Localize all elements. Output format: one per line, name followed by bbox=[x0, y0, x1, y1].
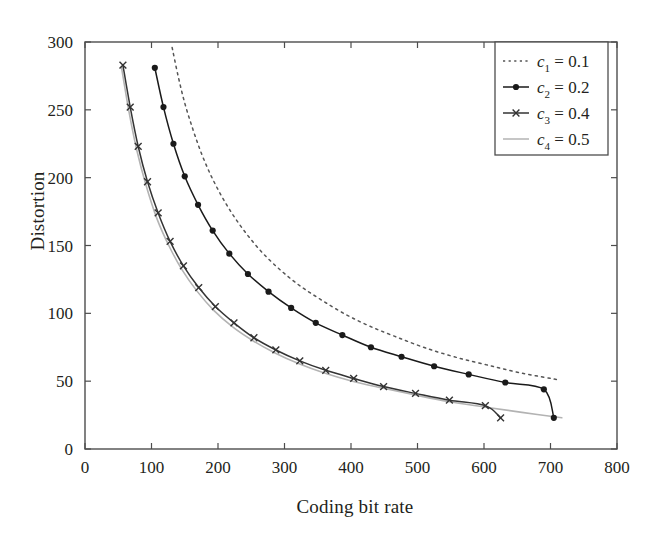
x-tick-label: 400 bbox=[338, 458, 364, 477]
data-point-marker bbox=[210, 227, 216, 233]
data-point-marker bbox=[551, 415, 557, 421]
y-tick-label: 150 bbox=[48, 237, 74, 256]
data-point-marker bbox=[502, 379, 508, 385]
data-point-marker bbox=[226, 251, 232, 257]
x-tick-label: 0 bbox=[81, 458, 90, 477]
data-point-marker bbox=[431, 363, 437, 369]
data-point-marker bbox=[541, 386, 547, 392]
x-tick-label: 100 bbox=[139, 458, 165, 477]
series-line bbox=[123, 65, 501, 418]
data-point-marker bbox=[265, 289, 271, 295]
legend-marker bbox=[513, 84, 519, 90]
series-3 bbox=[120, 62, 505, 422]
data-point-marker bbox=[398, 354, 404, 360]
data-point-marker bbox=[170, 141, 176, 147]
data-point-marker bbox=[195, 202, 201, 208]
legend-value: = 0.4 bbox=[550, 104, 590, 123]
x-tick-label: 700 bbox=[538, 458, 564, 477]
y-tick-label: 100 bbox=[48, 304, 74, 323]
data-point-marker bbox=[368, 344, 374, 350]
x-tick-label: 500 bbox=[405, 458, 431, 477]
x-tick-label: 800 bbox=[604, 458, 630, 477]
x-tick-label: 200 bbox=[205, 458, 231, 477]
data-point-marker bbox=[245, 271, 251, 277]
data-point-marker bbox=[182, 173, 188, 179]
data-point-marker bbox=[313, 320, 319, 326]
legend-value: = 0.2 bbox=[550, 78, 589, 97]
data-point-marker bbox=[160, 104, 166, 110]
data-point-marker bbox=[339, 332, 345, 338]
x-tick-label: 300 bbox=[272, 458, 298, 477]
data-point-marker bbox=[288, 305, 294, 311]
data-point-marker bbox=[152, 65, 158, 71]
y-tick-label: 0 bbox=[65, 440, 74, 459]
plot-canvas: 0100200300400500600700800050100150200250… bbox=[0, 0, 663, 539]
y-tick-label: 50 bbox=[56, 372, 73, 391]
legend: c1 = 0.1c2 = 0.2c3 = 0.4c4 = 0.5 bbox=[495, 42, 608, 155]
legend-value: = 0.1 bbox=[550, 52, 589, 71]
data-point-marker bbox=[466, 371, 472, 377]
x-tick-label: 600 bbox=[471, 458, 497, 477]
legend-value: = 0.5 bbox=[550, 130, 589, 149]
y-tick-label: 300 bbox=[48, 33, 74, 52]
y-tick-label: 250 bbox=[48, 101, 74, 120]
series-line bbox=[155, 68, 554, 418]
y-tick-label: 200 bbox=[48, 169, 74, 188]
rate-distortion-figure: Distortion Coding bit rate 0100200300400… bbox=[0, 0, 663, 539]
